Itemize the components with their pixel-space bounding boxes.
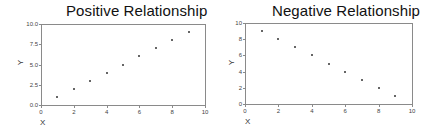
x-tick-mark <box>345 105 346 107</box>
data-point <box>344 71 346 73</box>
x-tick-mark <box>245 105 246 107</box>
y-tick-mark <box>243 55 245 56</box>
x-tick-label: 8 <box>373 108 385 114</box>
y-tick-mark <box>243 39 245 40</box>
x-tick-label: 2 <box>272 108 284 114</box>
x-tick-mark <box>278 105 279 107</box>
x-tick-mark <box>312 105 313 107</box>
data-point <box>261 30 263 32</box>
data-point <box>328 63 330 65</box>
y-tick-label: 8 <box>226 36 242 42</box>
y-tick-label: 10 <box>226 20 242 26</box>
x-tick-label: 4 <box>306 108 318 114</box>
data-point <box>378 87 380 89</box>
negative-relationship-chart: Negative Relationship Y X 0246810 024681… <box>0 0 429 134</box>
x-tick-mark <box>412 105 413 107</box>
y-tick-label: 4 <box>226 69 242 75</box>
y-tick-mark <box>243 88 245 89</box>
y-tick-label: 2 <box>226 85 242 91</box>
x-tick-label: 10 <box>406 108 418 114</box>
y-tick-label: 6 <box>226 52 242 58</box>
x-axis-label: X <box>245 117 250 126</box>
x-tick-label: 0 <box>239 108 251 114</box>
x-tick-label: 6 <box>339 108 351 114</box>
y-axis-label: Y <box>227 60 236 65</box>
x-tick-mark <box>379 105 380 107</box>
chart-title: Negative Relationship <box>272 2 420 19</box>
y-tick-label: 0 <box>226 101 242 107</box>
y-tick-mark <box>243 23 245 24</box>
y-tick-mark <box>243 72 245 73</box>
data-point <box>361 79 363 81</box>
